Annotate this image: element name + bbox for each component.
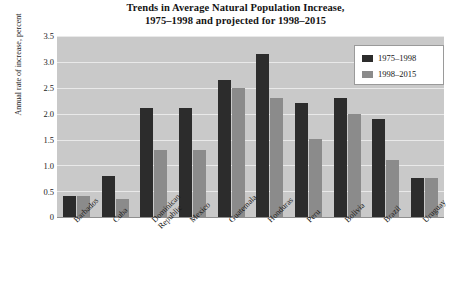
y-tick-label: 2.5 xyxy=(20,84,54,93)
chart-title-line-1: Trends in Average Natural Population Inc… xyxy=(0,2,471,15)
chart-title: Trends in Average Natural Population Inc… xyxy=(0,2,471,27)
gridline xyxy=(57,88,444,89)
gridline xyxy=(57,140,444,141)
legend-item: 1998–2015 xyxy=(362,67,443,81)
y-tick-label: 2.0 xyxy=(20,110,54,119)
chart-title-line-2: 1975–1998 and projected for 1998–2015 xyxy=(0,15,471,28)
legend-item: 1975–1998 xyxy=(362,51,443,65)
bar xyxy=(295,103,308,217)
bar xyxy=(270,98,283,217)
bar xyxy=(372,119,385,217)
y-tick-label: 0.5 xyxy=(20,188,54,197)
y-tick-label: 1.0 xyxy=(20,162,54,171)
legend-swatch-icon xyxy=(362,55,373,62)
y-tick-label: 3.5 xyxy=(20,32,54,41)
x-axis-tick-labels: BarbadosCubaDominicanRepublicMexicoGuate… xyxy=(0,218,471,282)
bar xyxy=(63,196,76,217)
bar xyxy=(140,108,153,217)
bar xyxy=(256,54,269,217)
bar xyxy=(218,80,231,217)
bar xyxy=(334,98,347,217)
y-tick-label: 1.5 xyxy=(20,136,54,145)
bar xyxy=(232,88,245,217)
legend-swatch-icon xyxy=(362,71,373,78)
chart-figure: Trends in Average Natural Population Inc… xyxy=(0,0,471,282)
bar xyxy=(102,176,115,217)
gridline xyxy=(57,36,444,37)
legend-label: 1975–1998 xyxy=(378,54,416,63)
legend-label: 1998–2015 xyxy=(378,70,416,79)
gridline xyxy=(57,114,444,115)
bar xyxy=(411,178,424,217)
chart-legend: 1975–1998 1998–2015 xyxy=(354,45,444,85)
y-tick-label: 3.0 xyxy=(20,58,54,67)
bar xyxy=(309,139,322,217)
